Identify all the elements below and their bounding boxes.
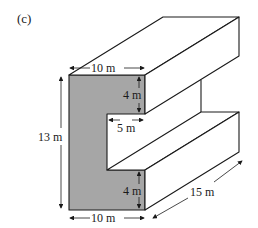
- dim-top-notch-height: 4 m: [123, 89, 141, 101]
- dim-bottom-notch-height: 4 m: [123, 185, 141, 197]
- dim-top-width: 10 m: [91, 62, 115, 74]
- dim-notch-depth: 5 m: [117, 122, 135, 134]
- dim-length: 15 m: [190, 186, 214, 198]
- dim-total-height: 13 m: [38, 131, 62, 143]
- dim-bottom-width: 10 m: [91, 212, 115, 224]
